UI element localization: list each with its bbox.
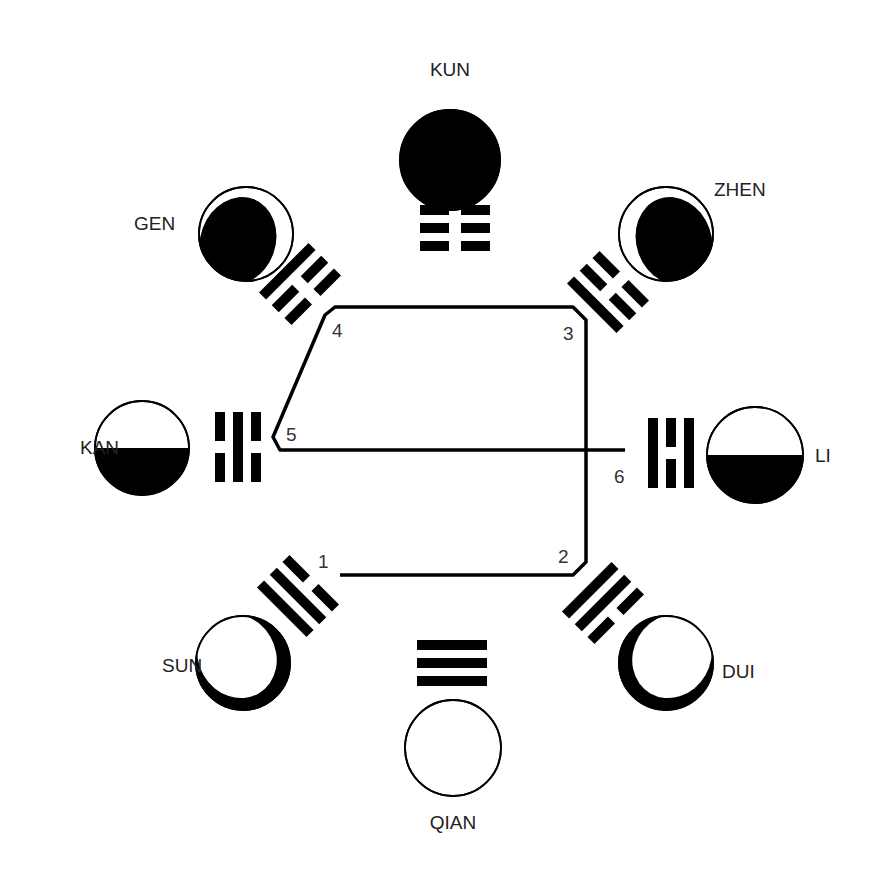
trigram-label-zhen: ZHEN [714, 179, 766, 200]
sequence-markers: 123456 [286, 320, 625, 572]
trigram-icon-kun [420, 205, 490, 251]
step-number-6: 6 [614, 466, 625, 487]
trigram-label-kun: KUN [430, 59, 470, 80]
moon-phase-icon [619, 186, 725, 296]
sequence-line [273, 307, 625, 575]
trigram-group-qian: QIAN [405, 640, 501, 833]
moon-phase-icon [617, 599, 727, 712]
step-number-1: 1 [318, 551, 329, 572]
trigram-group-zhen: ZHEN [567, 179, 766, 333]
trigram-ring: KUNZHENLIDUIQIANSUNKANGEN [80, 59, 831, 833]
trigram-group-gen: GEN [134, 186, 341, 325]
moon-phase-icon [400, 110, 500, 210]
moon-phase-icon [707, 407, 803, 503]
step-number-5: 5 [286, 424, 297, 445]
trigram-icon-qian [417, 640, 487, 686]
trigram-group-dui: DUI [562, 562, 755, 713]
step-number-4: 4 [332, 320, 343, 341]
trigram-group-sun: SUN [162, 555, 339, 713]
step-number-3: 3 [563, 323, 574, 344]
trigram-icon-li [648, 418, 694, 488]
trigram-group-li: LI [648, 407, 831, 503]
trigram-label-dui: DUI [722, 661, 755, 682]
bagua-diagram: KUNZHENLIDUIQIANSUNKANGEN 123456 [0, 0, 880, 877]
trigram-label-li: LI [815, 445, 831, 466]
trigram-label-qian: QIAN [430, 812, 476, 833]
trigram-icon-kan [215, 412, 261, 482]
trigram-label-sun: SUN [162, 655, 202, 676]
trigram-label-gen: GEN [134, 213, 175, 234]
trigram-group-kun: KUN [400, 59, 500, 251]
sequence-path [273, 307, 625, 575]
trigram-group-kan: KAN [80, 401, 261, 495]
trigram-label-kan: KAN [80, 437, 119, 458]
moon-phase-icon [405, 700, 501, 796]
step-number-2: 2 [558, 546, 569, 567]
